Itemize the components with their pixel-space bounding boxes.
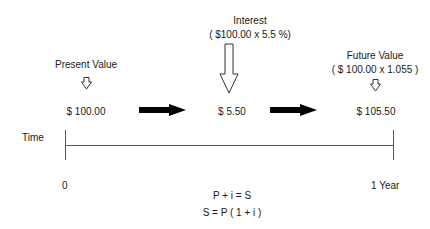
right-arrow-icon	[139, 104, 187, 116]
future-value-amount: $ 105.50	[357, 106, 396, 118]
right-arrow-icon	[270, 104, 318, 116]
timeline-line	[65, 145, 393, 146]
future-value-down-arrow-icon	[370, 79, 381, 92]
equation-compound: S = P ( 1 + i )	[203, 207, 262, 219]
equation-sum: P + i = S	[213, 190, 251, 202]
interest-down-arrow-icon	[219, 44, 239, 94]
future-value-label: Future Value	[347, 50, 404, 62]
present-value-label: Present Value	[55, 59, 117, 71]
present-value-down-arrow-icon	[81, 77, 92, 90]
timeline-end-label: 1 Year	[371, 180, 399, 192]
timeline-end-tick	[393, 130, 394, 160]
interest-amount: $ 5.50	[218, 106, 246, 118]
present-value-amount: $ 100.00	[67, 106, 106, 118]
time-label: Time	[22, 132, 44, 144]
interest-formula: ( $100.00 x 5.5 %)	[209, 29, 291, 41]
future-value-formula: ( $ 100.00 x 1.055 )	[332, 64, 419, 76]
interest-label: Interest	[233, 15, 266, 27]
timeline-start-label: 0	[62, 180, 68, 192]
